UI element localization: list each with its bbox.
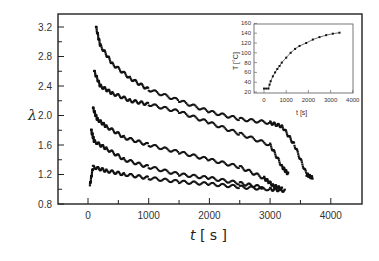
svg-text:140: 140 (241, 30, 252, 36)
svg-text:2000: 2000 (198, 210, 221, 221)
svg-text:120: 120 (241, 40, 252, 46)
svg-text:80: 80 (244, 60, 251, 66)
inset-y-axis-label: T [°C] (232, 52, 240, 70)
svg-text:1000: 1000 (138, 210, 161, 221)
svg-text:2000: 2000 (302, 97, 316, 103)
inset-x-axis-label: t [s] (296, 109, 307, 117)
svg-text:1.2: 1.2 (38, 169, 52, 180)
svg-text:1000: 1000 (280, 97, 294, 103)
svg-text:160: 160 (241, 20, 252, 26)
svg-text:100: 100 (241, 50, 252, 56)
svg-text:40: 40 (244, 79, 251, 85)
svg-text:3.2: 3.2 (38, 22, 52, 33)
svg-text:2.0: 2.0 (38, 110, 52, 121)
svg-text:0: 0 (262, 97, 266, 103)
y-axis-label: λ (27, 107, 37, 123)
svg-text:2.8: 2.8 (38, 51, 52, 62)
inset-plot: 2040608010012014016001000200030004000 (241, 20, 360, 103)
svg-text:4000: 4000 (320, 210, 343, 221)
svg-text:4000: 4000 (346, 97, 360, 103)
svg-text:3000: 3000 (324, 97, 338, 103)
svg-text:3000: 3000 (259, 210, 282, 221)
svg-text:2.4: 2.4 (38, 81, 52, 92)
svg-text:0.8: 0.8 (38, 199, 52, 210)
x-axis-label: t [ s ] (190, 227, 227, 243)
svg-text:20: 20 (244, 89, 251, 95)
svg-text:60: 60 (244, 69, 251, 75)
svg-text:0: 0 (85, 210, 91, 221)
svg-text:1.6: 1.6 (38, 140, 52, 151)
chart-canvas: 0.81.21.62.02.42.83.2 01000200030004000 … (0, 0, 379, 261)
